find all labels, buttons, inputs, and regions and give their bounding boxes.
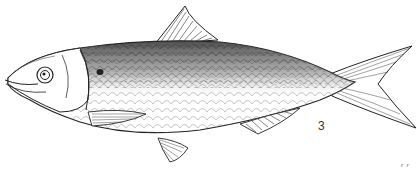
- corner-mark: r r: [401, 162, 410, 168]
- fish-illustration: [0, 0, 417, 173]
- dorsal-fin: [155, 6, 218, 44]
- figure-number: 3: [318, 119, 325, 133]
- pelvic-fin: [158, 138, 188, 162]
